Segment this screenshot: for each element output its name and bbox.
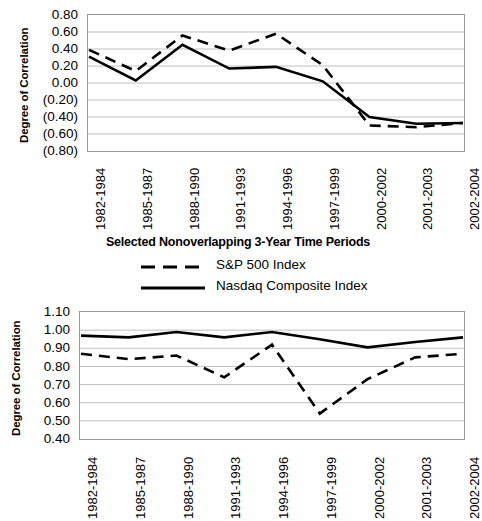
series-line: [81, 345, 463, 414]
x-tick-label: 1994-1996: [277, 457, 290, 519]
x-tick-label: 1988-1990: [182, 457, 195, 519]
legend-label-sp500: S&P 500 Index: [216, 258, 306, 272]
y-tick-label: 0.20: [52, 59, 78, 73]
x-tick-label: 1997-1999: [325, 457, 338, 519]
y-tick-label: 0.60: [44, 396, 70, 410]
top-chart-x-axis-title: Selected Nonoverlapping 3-Year Time Peri…: [0, 235, 476, 249]
dashed-line-swatch-icon: [140, 259, 206, 271]
x-tick-label: 2002-2004: [468, 457, 481, 519]
y-tick-label: 1.00: [44, 323, 70, 337]
y-tick-label: 0.00: [52, 76, 78, 90]
solid-line-swatch-icon: [140, 280, 206, 292]
y-tick-label: 0.40: [44, 432, 70, 446]
bottom-chart-y-axis-title: Degree of Correlation: [10, 321, 22, 436]
x-tick-label: 2001-2003: [420, 457, 433, 519]
x-tick-label: 1991-1993: [229, 457, 242, 519]
x-tick-label: 1982-1984: [94, 168, 107, 230]
x-tick-label: 2000-2002: [373, 457, 386, 519]
y-tick-label: (0.20): [43, 93, 78, 107]
legend-label-nasdaq: Nasdaq Composite Index: [216, 279, 368, 293]
y-tick-label: (0.80): [43, 144, 78, 158]
y-tick-label: 0.50: [44, 414, 70, 428]
x-tick-label: 1985-1987: [134, 457, 147, 519]
x-tick-label: 1985-1987: [141, 168, 154, 230]
x-tick-label: 2000-2002: [375, 168, 388, 230]
bottom-chart-plot-area: [79, 311, 465, 440]
legend-item-nasdaq: Nasdaq Composite Index: [140, 279, 368, 293]
y-tick-label: 0.80: [44, 360, 70, 374]
y-tick-label: 0.40: [52, 42, 78, 56]
y-tick-label: (0.40): [43, 110, 78, 124]
y-tick-label: 0.90: [44, 341, 70, 355]
x-tick-label: 1997-1999: [328, 168, 341, 230]
y-tick-label: 0.80: [52, 8, 78, 22]
x-tick-label: 1991-1993: [234, 168, 247, 230]
series-line: [89, 45, 463, 124]
x-tick-label: 1994-1996: [281, 168, 294, 230]
series-line: [89, 34, 463, 128]
top-chart-y-axis-title: Degree of Correlation: [18, 28, 30, 143]
top-chart-plot-area: [87, 14, 465, 152]
y-tick-label: 1.10: [44, 305, 70, 319]
x-tick-label: 2001-2003: [421, 168, 434, 230]
x-tick-label: 1982-1984: [86, 457, 99, 519]
legend-item-sp500: S&P 500 Index: [140, 258, 306, 272]
y-tick-label: 0.60: [52, 25, 78, 39]
x-tick-label: 2002-2004: [468, 168, 481, 230]
x-tick-label: 1988-1990: [188, 168, 201, 230]
y-tick-label: 0.70: [44, 378, 70, 392]
y-tick-label: (0.60): [43, 127, 78, 141]
